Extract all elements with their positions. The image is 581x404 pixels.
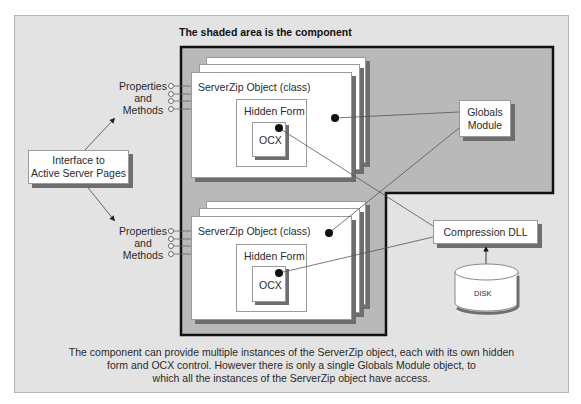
connection-dot bbox=[275, 124, 283, 132]
connection-dot bbox=[275, 269, 283, 277]
connection-dot bbox=[325, 229, 333, 237]
connector-overlay bbox=[0, 0, 581, 404]
connector-lines bbox=[279, 112, 459, 273]
disk-label: DISK bbox=[474, 289, 492, 298]
connection-dot bbox=[331, 114, 339, 122]
figure-caption: The component can provide multiple insta… bbox=[20, 346, 563, 385]
